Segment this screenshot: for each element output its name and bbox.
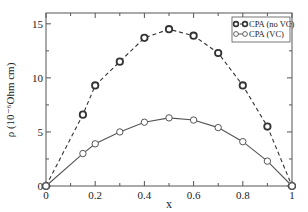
data-point-marker (80, 111, 86, 117)
series-cpa-vc (43, 115, 295, 190)
data-point-marker (92, 82, 98, 88)
chart: 00.20.40.60.81051015 CPA (no VC)CPA (VC)… (0, 0, 308, 212)
y-tick-label: 10 (32, 72, 44, 84)
data-point-marker (240, 138, 246, 144)
legend-label: CPA (VC) (249, 29, 284, 39)
data-point-marker (264, 158, 270, 164)
x-axis-label: x (166, 197, 172, 211)
data-point-marker (215, 50, 221, 56)
data-point-marker (117, 58, 123, 64)
data-point-marker (215, 124, 221, 130)
legend-marker-icon (243, 22, 248, 27)
y-tick-label: 15 (32, 18, 44, 30)
data-point-marker (92, 141, 98, 147)
data-point-marker (43, 183, 49, 189)
data-point-marker (141, 119, 147, 125)
series-cpa-no-vc (43, 26, 295, 189)
x-tick-label: 0.4 (138, 189, 152, 201)
x-tick-label: 1 (289, 189, 295, 201)
legend: CPA (no VC)CPA (VC) (232, 17, 295, 42)
x-tick-label: 0.2 (88, 189, 102, 201)
legend-marker-icon (243, 32, 248, 37)
data-point-marker (141, 35, 147, 41)
series-line (46, 29, 292, 186)
data-point-marker (289, 183, 295, 189)
y-axis-label: ρ (10⁻⁶Ohm cm) (4, 62, 17, 137)
legend-marker-icon (234, 32, 239, 37)
data-point-marker (190, 117, 196, 123)
data-point-marker (80, 150, 86, 156)
legend-label: CPA (no VC) (249, 19, 295, 29)
y-tick-label: 5 (38, 126, 44, 138)
data-point-marker (166, 115, 172, 121)
data-point-marker (117, 129, 123, 135)
x-tick-label: 0 (43, 189, 49, 201)
x-tick-label: 0.8 (236, 189, 250, 201)
legend-marker-icon (234, 22, 239, 27)
x-tick-label: 0.6 (187, 189, 201, 201)
series-layer (43, 26, 295, 189)
data-point-marker (264, 123, 270, 129)
data-point-marker (166, 26, 172, 32)
data-point-marker (190, 33, 196, 39)
data-point-marker (240, 82, 246, 88)
